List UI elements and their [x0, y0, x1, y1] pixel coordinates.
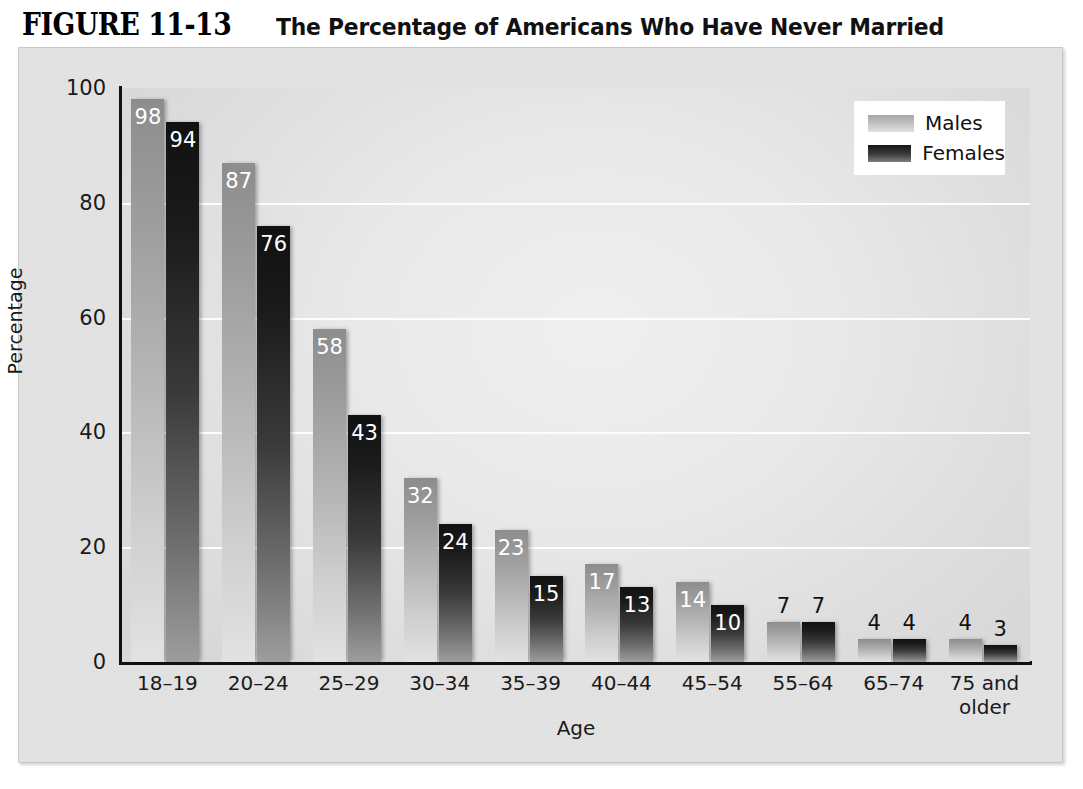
y-axis-title: Percentage: [4, 268, 26, 375]
figure-number: FIGURE 11-13: [22, 6, 231, 42]
x-tick-label-8: 65–74: [848, 672, 939, 696]
female-gradient-swatch: [868, 145, 911, 162]
x-tick-label-2: 25–29: [304, 672, 395, 696]
y-tick-label-60: 60: [42, 306, 106, 330]
bar-female-9: 3: [984, 645, 1017, 662]
bar-male-6: 14: [676, 582, 709, 662]
x-tick-label-3: 30–34: [394, 672, 485, 696]
bar-fill: [257, 226, 290, 662]
y-tick-label-0: 0: [42, 650, 106, 674]
bar-fill: [858, 639, 891, 662]
bar-value-label: 4: [893, 613, 926, 634]
bar-value-label: 23: [495, 538, 528, 559]
bar-value-label: 4: [949, 613, 982, 634]
bar-female-7: 7: [802, 622, 835, 662]
x-tick-label-1: 20–24: [213, 672, 304, 696]
bar-value-label: 7: [767, 596, 800, 617]
bar-fill: [949, 639, 982, 662]
legend-item-males: Males: [868, 111, 1005, 135]
bar-fill: [984, 645, 1017, 662]
bar-value-label: 10: [711, 613, 744, 634]
bar-value-label: 17: [585, 572, 618, 593]
bar-value-label: 43: [348, 423, 381, 444]
legend-label: Females: [922, 141, 1005, 165]
legend-item-females: Females: [868, 141, 1005, 165]
bar-female-3: 24: [439, 524, 472, 662]
bar-male-9: 4: [949, 639, 982, 662]
bar-value-label: 76: [257, 234, 290, 255]
figure-caption: The Percentage of Americans Who Have Nev…: [276, 14, 944, 40]
bar-female-1: 76: [257, 226, 290, 662]
x-tick-label-7: 55–64: [758, 672, 849, 696]
bar-value-label: 24: [439, 532, 472, 553]
bar-value-label: 3: [984, 619, 1017, 640]
bar-male-5: 17: [585, 564, 618, 662]
bar-female-6: 10: [711, 605, 744, 662]
figure-title: FIGURE 11-13 The Percentage of Americans…: [22, 6, 965, 44]
bar-female-0: 94: [166, 122, 199, 662]
y-tick-label-40: 40: [42, 420, 106, 444]
bar-fill: [767, 622, 800, 662]
bar-value-label: 7: [802, 596, 835, 617]
bar-value-label: 32: [404, 486, 437, 507]
x-tick-label-0: 18–19: [122, 672, 213, 696]
bar-value-label: 94: [166, 130, 199, 151]
y-tick-label-20: 20: [42, 535, 106, 559]
bar-fill: [802, 622, 835, 662]
bar-value-label: 13: [620, 595, 653, 616]
bar-value-label: 58: [313, 337, 346, 358]
bar-value-label: 4: [858, 613, 891, 634]
bar-fill: [313, 329, 346, 662]
bar-female-2: 43: [348, 415, 381, 662]
bar-fill: [222, 163, 255, 662]
x-tick-label-4: 35–39: [485, 672, 576, 696]
bar-fill: [348, 415, 381, 662]
male-gradient-swatch: [868, 115, 914, 132]
bar-female-8: 4: [893, 639, 926, 662]
y-tick-label-100: 100: [42, 76, 106, 100]
y-axis-ticks: 020406080100: [42, 88, 106, 662]
bar-male-8: 4: [858, 639, 891, 662]
gridline-80: [122, 203, 1030, 205]
bar-value-label: 15: [530, 584, 563, 605]
bar-fill: [893, 639, 926, 662]
chart-legend: MalesFemales: [854, 101, 1005, 175]
bar-fill: [131, 99, 164, 662]
bar-female-4: 15: [530, 576, 563, 662]
y-tick-label-80: 80: [42, 191, 106, 215]
x-axis-title: Age: [122, 716, 1030, 740]
bar-male-2: 58: [313, 329, 346, 662]
bar-male-3: 32: [404, 478, 437, 662]
bar-male-0: 98: [131, 99, 164, 662]
bar-value-label: 98: [131, 107, 164, 128]
x-tick-label-6: 45–54: [667, 672, 758, 696]
bar-female-5: 13: [620, 587, 653, 662]
bar-value-label: 87: [222, 171, 255, 192]
bar-male-7: 7: [767, 622, 800, 662]
bar-fill: [166, 122, 199, 662]
bar-male-4: 23: [495, 530, 528, 662]
x-tick-label-9: 75 andolder: [939, 672, 1030, 719]
x-tick-label-5: 40–44: [576, 672, 667, 696]
bar-male-1: 87: [222, 163, 255, 662]
legend-label: Males: [925, 111, 983, 135]
bar-value-label: 14: [676, 590, 709, 611]
